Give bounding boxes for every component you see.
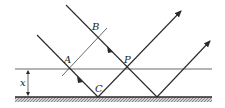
- label-C: C: [95, 83, 103, 94]
- height-indicator: [26, 70, 30, 96]
- ray-2-direction-arrow: [107, 46, 113, 53]
- label-B: B: [91, 21, 99, 32]
- ray-1-incident: [37, 35, 98, 97]
- reflecting-surface: [15, 97, 212, 102]
- ray-1-direction-arrow: [77, 76, 83, 83]
- label-x: x: [20, 77, 26, 88]
- thin-film-reflection-diagram: A B P C x: [0, 0, 225, 108]
- label-A: A: [63, 54, 71, 65]
- label-P: P: [123, 54, 131, 65]
